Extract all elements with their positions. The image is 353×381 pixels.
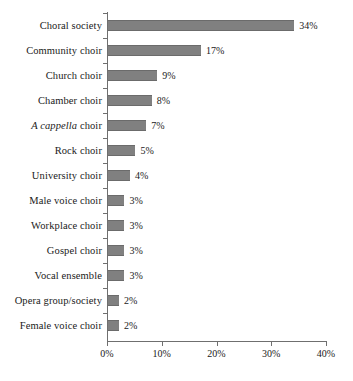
category-label: Vocal ensemble bbox=[0, 270, 102, 282]
x-axis-tick-label: 20% bbox=[207, 348, 225, 360]
bar-value-label: 34% bbox=[299, 20, 317, 31]
y-axis-tick bbox=[103, 263, 107, 264]
x-axis-tick bbox=[271, 341, 272, 346]
bar-value-label: 3% bbox=[129, 270, 142, 281]
category-label: Church choir bbox=[0, 70, 102, 82]
y-axis-tick bbox=[103, 38, 107, 39]
bar-row: Church choir9% bbox=[0, 63, 353, 88]
x-axis-ticks bbox=[0, 341, 353, 347]
bar-value-label: 5% bbox=[140, 145, 153, 156]
bar-and-value: 34% bbox=[108, 20, 317, 31]
bar bbox=[108, 20, 294, 31]
x-axis-tick bbox=[162, 341, 163, 346]
bar bbox=[108, 95, 152, 106]
bar-and-value: 2% bbox=[108, 295, 137, 306]
category-label: Workplace choir bbox=[0, 220, 102, 232]
bar bbox=[108, 220, 124, 231]
bar bbox=[108, 170, 130, 181]
category-label: Choral society bbox=[0, 20, 102, 32]
bar-row: Rock choir5% bbox=[0, 138, 353, 163]
bar-value-label: 3% bbox=[129, 220, 142, 231]
bar-and-value: 5% bbox=[108, 145, 154, 156]
bar-rows: Choral society34%Community choir17%Churc… bbox=[0, 13, 353, 338]
y-axis-tick bbox=[103, 63, 107, 64]
bar-row: Community choir17% bbox=[0, 38, 353, 63]
bar bbox=[108, 45, 201, 56]
bar-value-label: 2% bbox=[124, 320, 137, 331]
bar-value-label: 7% bbox=[151, 120, 164, 131]
y-axis-tick bbox=[103, 288, 107, 289]
bar bbox=[108, 120, 146, 131]
y-axis-tick bbox=[103, 88, 107, 89]
bar-value-label: 8% bbox=[157, 95, 170, 106]
bar-chart: Choral society34%Community choir17%Churc… bbox=[0, 0, 353, 381]
bar bbox=[108, 145, 135, 156]
bar-row: University choir4% bbox=[0, 163, 353, 188]
x-axis-tick bbox=[107, 341, 108, 346]
bar bbox=[108, 295, 119, 306]
category-label: Female voice choir bbox=[0, 320, 102, 332]
bar-and-value: 17% bbox=[108, 45, 224, 56]
bar-value-label: 3% bbox=[129, 245, 142, 256]
bar-row: Workplace choir3% bbox=[0, 213, 353, 238]
y-axis-tick bbox=[103, 163, 107, 164]
bar-and-value: 8% bbox=[108, 95, 170, 106]
category-label-roman: choir bbox=[77, 120, 102, 131]
bar-and-value: 2% bbox=[108, 320, 137, 331]
bar-and-value: 3% bbox=[108, 195, 143, 206]
bar-and-value: 4% bbox=[108, 170, 148, 181]
bar-and-value: 9% bbox=[108, 70, 176, 81]
bar-row: Vocal ensemble3% bbox=[0, 263, 353, 288]
bar-row: Gospel choir3% bbox=[0, 238, 353, 263]
y-axis-tick bbox=[103, 238, 107, 239]
x-axis-tick-label: 30% bbox=[262, 348, 280, 360]
y-axis-tick bbox=[103, 13, 107, 14]
bar bbox=[108, 195, 124, 206]
category-label: Rock choir bbox=[0, 145, 102, 157]
category-label: Gospel choir bbox=[0, 245, 102, 257]
x-axis-tick bbox=[326, 341, 327, 346]
category-label: A cappella choir bbox=[0, 120, 102, 132]
y-axis-tick bbox=[103, 138, 107, 139]
y-axis-tick bbox=[103, 313, 107, 314]
bar bbox=[108, 270, 124, 281]
bar-row: A cappella choir7% bbox=[0, 113, 353, 138]
category-label: Male voice choir bbox=[0, 195, 102, 207]
bar-row: Opera group/society2% bbox=[0, 288, 353, 313]
bar bbox=[108, 70, 157, 81]
bar-and-value: 3% bbox=[108, 270, 143, 281]
bar-value-label: 3% bbox=[129, 195, 142, 206]
plot-area: Choral society34%Community choir17%Churc… bbox=[0, 0, 353, 381]
x-axis-tick-label: 10% bbox=[153, 348, 171, 360]
bar-value-label: 9% bbox=[162, 70, 175, 81]
bar-and-value: 3% bbox=[108, 220, 143, 231]
category-label: Opera group/society bbox=[0, 295, 102, 307]
bar-value-label: 17% bbox=[206, 45, 224, 56]
y-axis-tick bbox=[103, 113, 107, 114]
bar-value-label: 2% bbox=[124, 295, 137, 306]
bar bbox=[108, 245, 124, 256]
x-axis-tick bbox=[217, 341, 218, 346]
x-axis-tick-label: 40% bbox=[317, 348, 335, 360]
category-label-italic: A cappella bbox=[31, 120, 77, 131]
x-axis-tick-labels: 0%10%20%30%40% bbox=[0, 348, 353, 362]
bar-row: Chamber choir8% bbox=[0, 88, 353, 113]
bar-row: Male voice choir3% bbox=[0, 188, 353, 213]
bar bbox=[108, 320, 119, 331]
bar-and-value: 3% bbox=[108, 245, 143, 256]
figure-caption-clipped bbox=[0, 370, 353, 381]
category-label: Chamber choir bbox=[0, 95, 102, 107]
bar-and-value: 7% bbox=[108, 120, 165, 131]
x-axis-tick-label: 0% bbox=[100, 348, 113, 360]
category-label: University choir bbox=[0, 170, 102, 182]
y-axis-tick bbox=[103, 213, 107, 214]
category-label: Community choir bbox=[0, 45, 102, 57]
bar-row: Choral society34% bbox=[0, 13, 353, 38]
y-axis-tick bbox=[103, 188, 107, 189]
bar-value-label: 4% bbox=[135, 170, 148, 181]
bar-row: Female voice choir2% bbox=[0, 313, 353, 338]
